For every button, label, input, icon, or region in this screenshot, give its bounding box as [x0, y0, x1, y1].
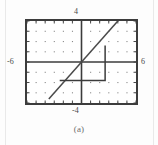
axis-label-left: -6 — [7, 58, 14, 66]
plot-frame — [25, 19, 138, 105]
axis-label-top: 4 — [74, 8, 78, 16]
plot-canvas — [27, 21, 136, 103]
axis-label-right: 6 — [141, 58, 145, 66]
axis-label-bottom: -4 — [72, 107, 79, 115]
staircase-path-icon — [60, 46, 105, 81]
figure-caption: (a) — [0, 124, 158, 134]
diagonal-line-icon — [49, 21, 126, 99]
figure-container: 4 -4 -6 6 (a) — [0, 0, 158, 145]
plot-inner — [27, 21, 136, 103]
